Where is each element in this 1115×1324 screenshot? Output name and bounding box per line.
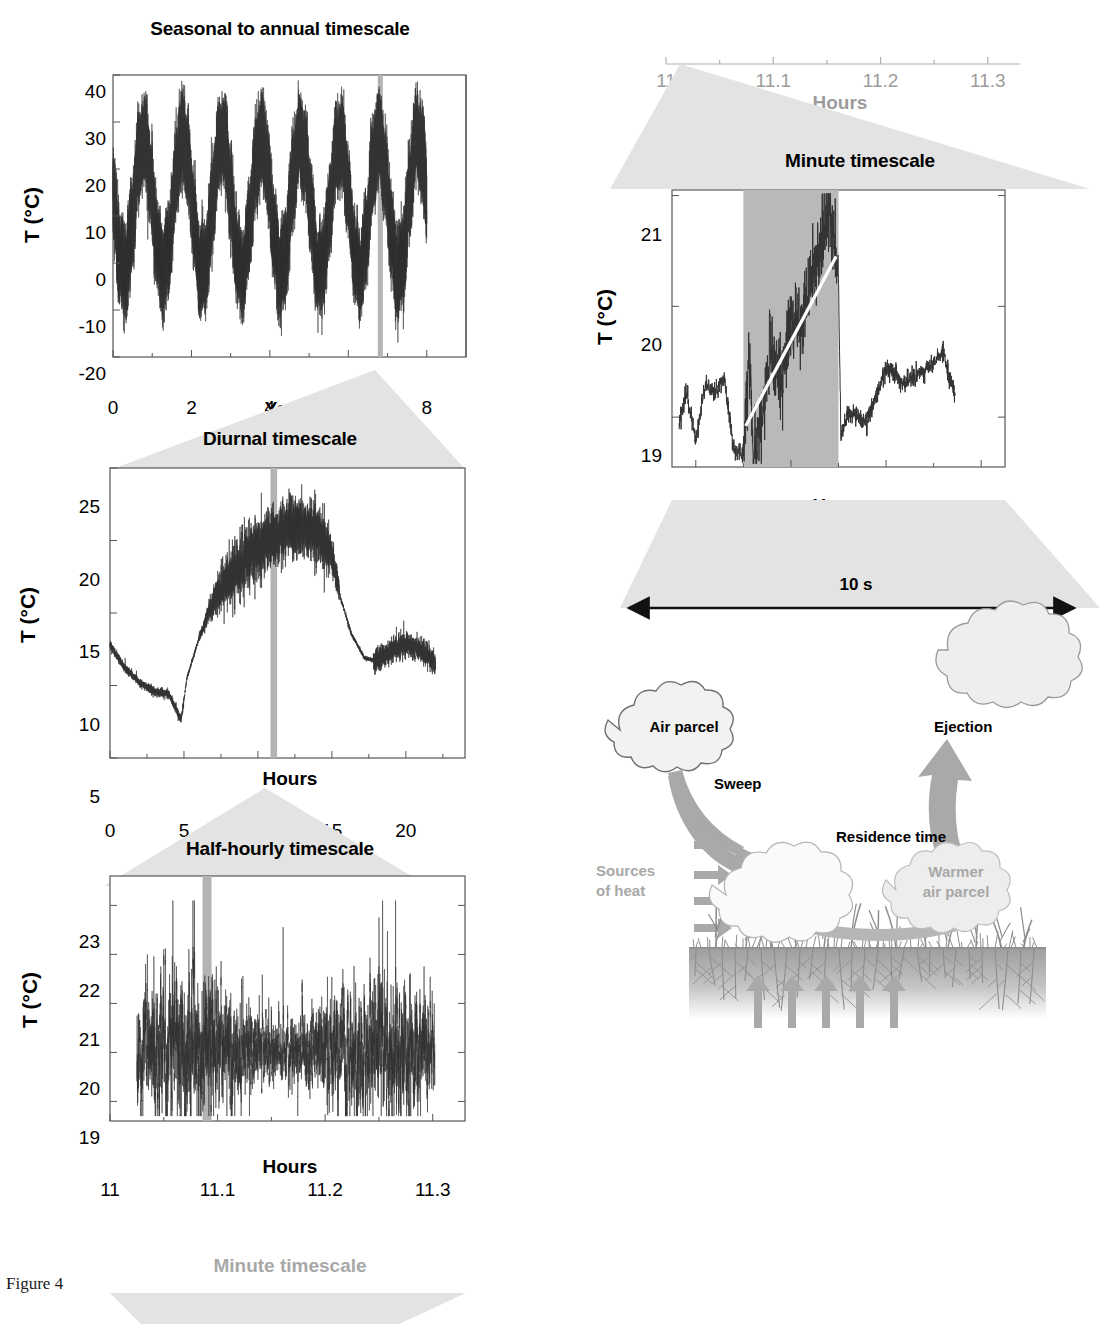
seasonal-plot-area: [113, 75, 466, 357]
tick-label: 20: [600, 334, 662, 356]
label-sources-of-heat-line2: of heat: [596, 882, 692, 899]
panel-diurnal-xlabel: Hours: [190, 768, 390, 790]
scale-label-10s: 10 s: [811, 575, 901, 595]
label-sources-of-heat-line1: Sources: [596, 862, 692, 879]
label-air-parcel: Air parcel: [629, 718, 739, 735]
label-warmer-line2: air parcel: [901, 883, 1011, 900]
tick-label: 20: [36, 1078, 100, 1100]
panel-minute-title: Minute timescale: [710, 150, 1010, 172]
label-ejection: Ejection: [934, 718, 1044, 735]
panel-halfhourly-title: Half-hourly timescale: [70, 838, 490, 860]
label-residence-time: Residence time: [836, 828, 996, 845]
tick-label: 0: [40, 269, 106, 291]
tick-label: 30: [40, 128, 106, 150]
tick-label: 19: [36, 1127, 100, 1149]
figure-caption: Figure 4: [6, 1274, 63, 1294]
tick-label: 21: [600, 224, 662, 246]
panel-diurnal: Diurnal timescale T (°C) Hours 252015105…: [0, 428, 500, 828]
tick-label: 23: [36, 931, 100, 953]
panel-seasonal-chart: [0, 18, 500, 418]
cloud-ejected-parcel: [936, 601, 1082, 708]
tick-label: 40: [40, 81, 106, 103]
tick-label: -10: [40, 316, 106, 338]
diagram-svg: [596, 580, 1115, 1030]
panel-minute: Minute timescale T (°C) Hours 212019 11.…: [600, 150, 1100, 540]
label-sweep: Sweep: [714, 775, 804, 792]
tick-label: 15: [36, 641, 100, 663]
label-warmer-line1: Warmer: [901, 863, 1011, 880]
tick-label: 21: [36, 1029, 100, 1051]
funnel-halfhourly-to-minute: [0, 1180, 540, 1300]
tick-label: 20: [40, 175, 106, 197]
panel-seasonal-title: Seasonal to annual timescale: [80, 18, 480, 40]
tick-label: 22: [36, 980, 100, 1002]
tick-label: 25: [36, 496, 100, 518]
panel-halfhourly-xlabel: Hours: [190, 1156, 390, 1178]
panel-diurnal-title: Diurnal timescale: [80, 428, 480, 450]
panel-halfhourly: Half-hourly timescale T (°C) Hours 23222…: [0, 838, 500, 1218]
conceptual-diagram: 10 s Air parcel Sweep Sources of heat Re…: [596, 580, 1115, 1030]
tick-label: 20: [36, 569, 100, 591]
funnel-bottom-left-label: Minute timescale: [130, 1255, 450, 1277]
tick-label: 10: [36, 714, 100, 736]
tick-label: 10: [40, 222, 106, 244]
panel-minute-chart: [600, 150, 1100, 500]
tick-label: 19: [600, 445, 662, 467]
